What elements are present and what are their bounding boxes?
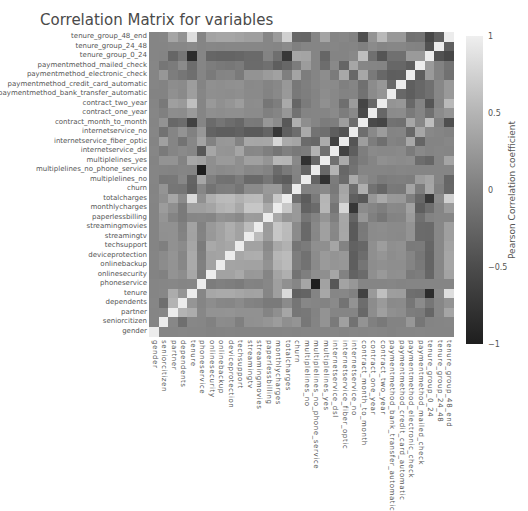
heatmap-cell bbox=[254, 279, 264, 289]
heatmap-cell bbox=[406, 251, 416, 261]
heatmap-cell bbox=[273, 80, 283, 90]
heatmap-cell bbox=[377, 260, 387, 270]
heatmap-cell bbox=[444, 80, 454, 90]
colorbar-tick: 0.5 bbox=[488, 109, 501, 118]
x-tick-label: phoneservice bbox=[197, 340, 207, 394]
heatmap-cell bbox=[349, 70, 359, 80]
heatmap-cell bbox=[377, 42, 387, 52]
heatmap-cell bbox=[434, 99, 444, 109]
heatmap-cell bbox=[339, 146, 349, 156]
heatmap-cell bbox=[368, 289, 378, 299]
heatmap-cell bbox=[235, 108, 245, 118]
heatmap-cell bbox=[415, 137, 425, 147]
heatmap-cell bbox=[149, 279, 159, 289]
heatmap-cell bbox=[206, 241, 216, 251]
heatmap-cell bbox=[292, 260, 302, 270]
heatmap-cell bbox=[358, 175, 368, 185]
heatmap-cell bbox=[273, 203, 283, 213]
heatmap-cell bbox=[244, 70, 254, 80]
heatmap-cell bbox=[225, 251, 235, 261]
heatmap-cell bbox=[425, 241, 435, 251]
heatmap-cell bbox=[330, 251, 340, 261]
heatmap-cell bbox=[254, 327, 264, 337]
heatmap-cell bbox=[387, 213, 397, 223]
heatmap-cell bbox=[235, 89, 245, 99]
heatmap-cell bbox=[187, 51, 197, 61]
heatmap-cell bbox=[187, 118, 197, 128]
heatmap-cell bbox=[339, 260, 349, 270]
heatmap-cell bbox=[444, 42, 454, 52]
heatmap-cell bbox=[311, 51, 321, 61]
heatmap-cell bbox=[368, 175, 378, 185]
heatmap-cell bbox=[235, 32, 245, 42]
heatmap-cell bbox=[292, 137, 302, 147]
heatmap-cell bbox=[235, 118, 245, 128]
heatmap-cell bbox=[349, 146, 359, 156]
heatmap-cell bbox=[197, 298, 207, 308]
heatmap-cell bbox=[254, 232, 264, 242]
heatmap-cell bbox=[254, 32, 264, 42]
heatmap-cell bbox=[434, 175, 444, 185]
heatmap-cell bbox=[396, 89, 406, 99]
heatmap-cell bbox=[149, 70, 159, 80]
heatmap-cell bbox=[387, 137, 397, 147]
heatmap-cell bbox=[377, 289, 387, 299]
heatmap-cell bbox=[406, 165, 416, 175]
heatmap-cell bbox=[206, 70, 216, 80]
heatmap-cell bbox=[358, 42, 368, 52]
heatmap-cell bbox=[168, 222, 178, 232]
heatmap-cell bbox=[406, 270, 416, 280]
heatmap-cell bbox=[406, 175, 416, 185]
heatmap-cell bbox=[168, 251, 178, 261]
heatmap-cell bbox=[320, 317, 330, 327]
x-tick-label: paymentmethod_credit_card_automatic bbox=[396, 340, 406, 500]
y-tick-label: paymentmethod_bank_transfer_automatic bbox=[0, 89, 147, 99]
heatmap-cell bbox=[168, 317, 178, 327]
heatmap-cell bbox=[377, 327, 387, 337]
heatmap-cell bbox=[434, 232, 444, 242]
heatmap-cell bbox=[320, 213, 330, 223]
heatmap-cell bbox=[235, 270, 245, 280]
heatmap-cell bbox=[301, 70, 311, 80]
heatmap-cell bbox=[216, 118, 226, 128]
heatmap-cell bbox=[206, 118, 216, 128]
heatmap-cell bbox=[273, 137, 283, 147]
heatmap-cell bbox=[311, 99, 321, 109]
heatmap-cell bbox=[178, 184, 188, 194]
heatmap-cell bbox=[206, 251, 216, 261]
heatmap-cell bbox=[244, 127, 254, 137]
heatmap-cell bbox=[149, 175, 159, 185]
heatmap-cell bbox=[225, 327, 235, 337]
heatmap-cell bbox=[254, 308, 264, 318]
heatmap-cell bbox=[377, 99, 387, 109]
heatmap-cell bbox=[396, 317, 406, 327]
heatmap-cell bbox=[396, 156, 406, 166]
heatmap-cell bbox=[330, 51, 340, 61]
heatmap-cell bbox=[396, 80, 406, 90]
heatmap-cell bbox=[254, 175, 264, 185]
heatmap-cell bbox=[216, 222, 226, 232]
heatmap-cell bbox=[149, 184, 159, 194]
heatmap-cell bbox=[244, 99, 254, 109]
heatmap-cell bbox=[216, 251, 226, 261]
heatmap-cell bbox=[197, 194, 207, 204]
heatmap-cell bbox=[149, 241, 159, 251]
heatmap-cell bbox=[415, 51, 425, 61]
heatmap-cell bbox=[216, 89, 226, 99]
heatmap-cell bbox=[330, 61, 340, 71]
heatmap-cell bbox=[339, 298, 349, 308]
heatmap-cell bbox=[273, 327, 283, 337]
x-tick-label: multiplelines_no bbox=[301, 340, 311, 407]
heatmap-cell bbox=[434, 222, 444, 232]
heatmap-cell bbox=[301, 80, 311, 90]
heatmap-cell bbox=[197, 232, 207, 242]
heatmap-cell bbox=[368, 99, 378, 109]
heatmap-cell bbox=[159, 222, 169, 232]
heatmap-cell bbox=[254, 241, 264, 251]
heatmap-cell bbox=[187, 165, 197, 175]
heatmap-cell bbox=[330, 184, 340, 194]
heatmap-cell bbox=[263, 165, 273, 175]
y-tick-label: onlinebackup bbox=[100, 260, 147, 270]
heatmap-cell bbox=[415, 156, 425, 166]
heatmap-cell bbox=[320, 99, 330, 109]
